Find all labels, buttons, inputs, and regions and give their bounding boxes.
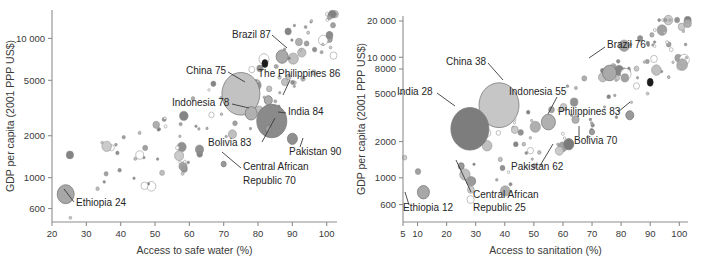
labeled-data-point [590, 129, 595, 135]
data-point [310, 20, 312, 23]
x-tick-label: 40 [499, 228, 510, 239]
data-point [285, 28, 291, 35]
data-point [666, 41, 669, 44]
y-tick-label: 5000 [24, 75, 45, 86]
data-point [174, 151, 183, 161]
annotation-label: India 28 [397, 86, 433, 97]
annotation-leader-line [437, 93, 455, 106]
data-point [209, 112, 214, 118]
data-point [133, 177, 135, 180]
y-axis-title: GDP per capita (2001 PPP US$) [4, 40, 16, 192]
labeled-data-point [245, 107, 257, 120]
data-point [555, 146, 563, 155]
labeled-data-point [626, 111, 634, 120]
data-point [122, 135, 125, 139]
labeled-data-point [541, 114, 555, 130]
data-point [179, 111, 188, 120]
data-point [653, 41, 655, 44]
data-point [141, 182, 148, 190]
sanitation-points [402, 15, 691, 203]
data-point [529, 136, 532, 139]
data-point [669, 48, 673, 52]
data-point [653, 29, 656, 32]
data-point [589, 118, 592, 121]
x-tick-label: 50 [529, 228, 540, 239]
data-point [616, 76, 620, 80]
x-tick-label: 20 [441, 228, 452, 239]
x-axis-title: Access to sanitation (%) [489, 244, 602, 256]
data-point [496, 178, 499, 181]
data-point [291, 80, 295, 84]
labeled-data-point [276, 50, 288, 63]
data-point [249, 127, 251, 130]
data-point [415, 169, 421, 175]
data-point [220, 113, 223, 116]
chart-panel-safe-water: 203040506070809010060010002000500010 000… [0, 0, 351, 257]
data-point [513, 142, 518, 147]
labeled-data-point [603, 65, 617, 81]
annotation-leader-line [272, 35, 287, 48]
data-point [96, 187, 99, 191]
labeled-data-point [264, 96, 272, 105]
data-point [160, 170, 165, 175]
data-point [645, 59, 649, 63]
data-point [181, 172, 184, 175]
data-point [312, 47, 316, 52]
data-point [322, 43, 324, 46]
data-point [530, 121, 540, 132]
x-tick-label: 60 [558, 228, 569, 239]
data-point [513, 121, 515, 124]
data-point [299, 49, 301, 52]
annotation-label: Ethiopia 24 [76, 197, 126, 208]
data-point [179, 161, 181, 164]
data-point [669, 19, 671, 22]
annotation-label: Indonesia 78 [172, 97, 230, 108]
x-tick-label: 30 [470, 228, 481, 239]
data-point [206, 127, 208, 130]
x-tick-label: 80 [253, 228, 264, 239]
x-tick-label: 10 [412, 228, 423, 239]
data-point [616, 59, 620, 63]
y-tick-label: 1000 [24, 172, 45, 183]
x-tick-label: 40 [115, 228, 126, 239]
safe-water-axes: 203040506070809010060010002000500010 000… [4, 10, 337, 256]
y-tick-label: 2000 [375, 136, 396, 147]
x-tick-label: 70 [587, 228, 598, 239]
data-point [590, 122, 593, 125]
annotation-label: Philippines 83 [558, 106, 621, 117]
data-point [566, 85, 569, 88]
labeled-data-point [417, 186, 429, 199]
x-tick-label: 50 [150, 228, 161, 239]
data-point [511, 126, 518, 134]
data-point [646, 92, 649, 95]
data-point [634, 66, 639, 71]
data-point [527, 147, 533, 154]
data-point [518, 129, 523, 135]
annotation-label: Ethiopia 12 [403, 202, 453, 213]
data-point-dark [262, 60, 268, 68]
data-point [664, 18, 667, 21]
data-point [473, 163, 475, 166]
data-point [279, 91, 281, 94]
data-point [633, 83, 639, 90]
annotation-label: Republic 70 [243, 175, 296, 186]
data-point [525, 151, 528, 154]
data-point [636, 77, 638, 80]
x-tick-label: 90 [645, 228, 656, 239]
data-point [293, 85, 295, 88]
data-point [530, 119, 532, 122]
annotation-label: China 75 [186, 65, 226, 76]
data-point [164, 125, 167, 128]
data-point [526, 110, 530, 114]
y-tick-label: 5000 [375, 88, 396, 99]
data-point [179, 122, 182, 125]
data-point [327, 15, 331, 20]
y-tick-label: 600 [380, 199, 396, 210]
annotation-label: Brazil 87 [232, 29, 271, 40]
data-point [187, 161, 189, 164]
x-tick-label: 90 [287, 228, 298, 239]
data-point [291, 39, 293, 42]
x-tick-label: 30 [81, 228, 92, 239]
data-point [614, 94, 616, 97]
annotation-label: The Philippines 86 [258, 68, 341, 79]
